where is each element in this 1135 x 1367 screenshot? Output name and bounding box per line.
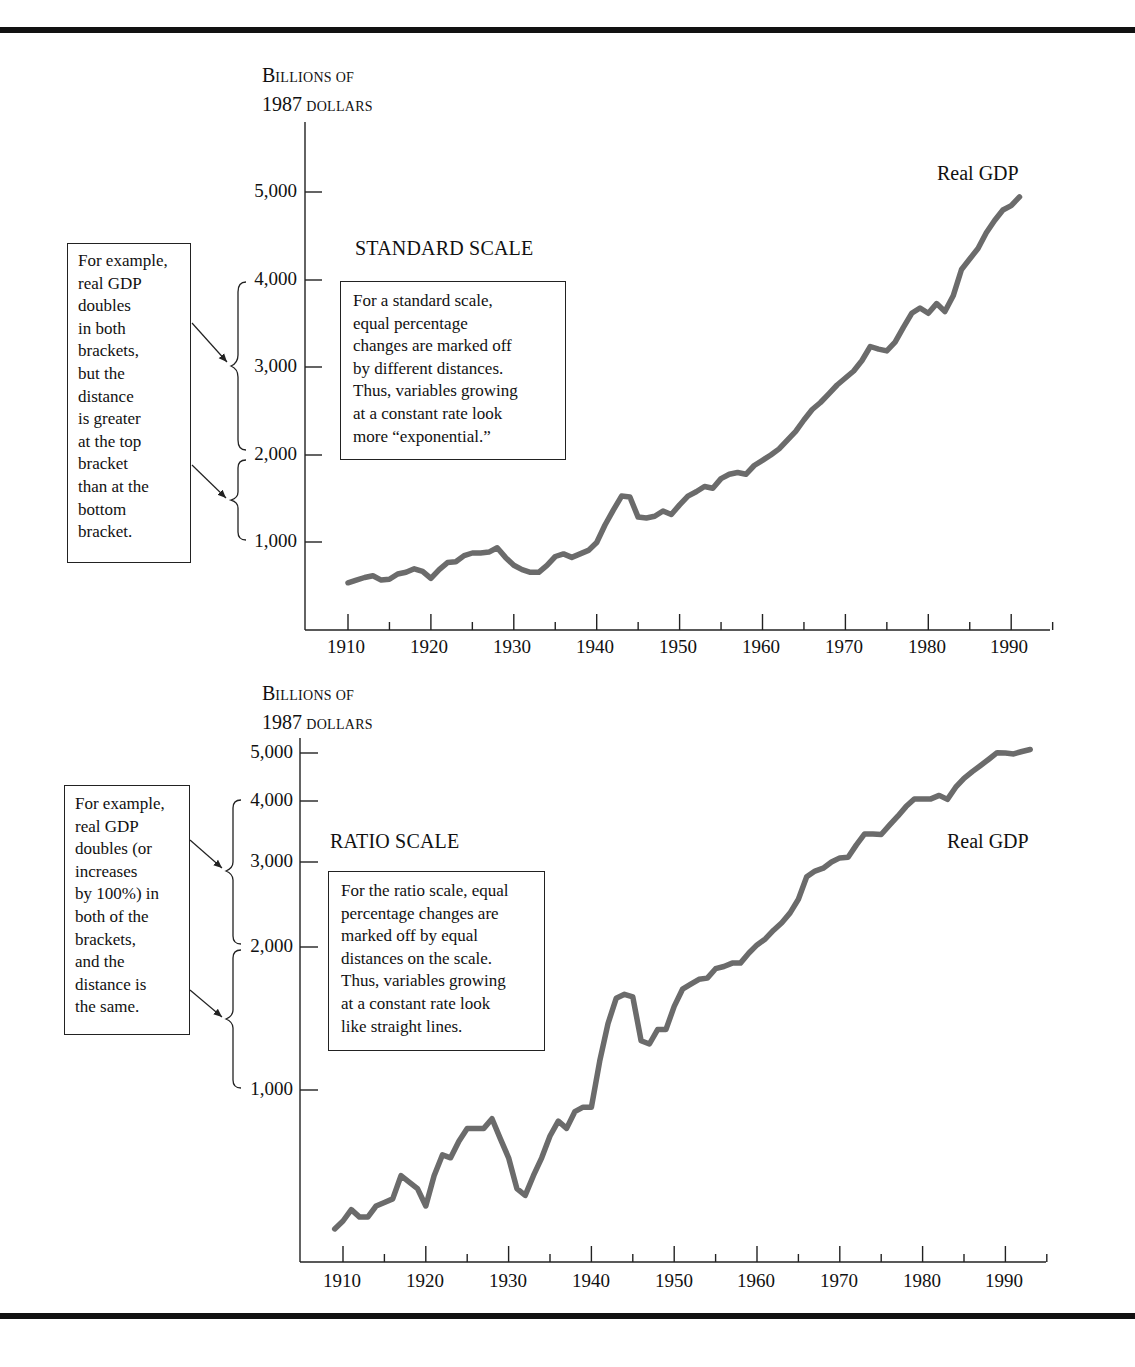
top-real-gdp-line — [348, 197, 1020, 583]
top-brackets — [231, 282, 246, 540]
bottom-real-gdp-line — [335, 750, 1030, 1229]
chart-graphics — [0, 0, 1135, 1367]
top-bracket-arrows — [192, 323, 227, 498]
top-x-ticks — [348, 614, 1053, 630]
bottom-bracket-arrows — [190, 840, 222, 1017]
bottom-x-ticks — [343, 1246, 1047, 1262]
bottom-brackets — [226, 800, 241, 1088]
top-axes — [305, 122, 1050, 630]
